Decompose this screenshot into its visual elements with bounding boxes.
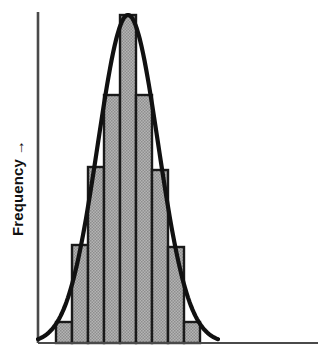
histogram-bar: [136, 95, 152, 343]
histogram-bar: [104, 95, 120, 343]
bar-fill: [104, 95, 120, 343]
bar-fill: [56, 322, 72, 343]
histogram-bar: [120, 15, 136, 343]
bar-fill: [168, 247, 184, 343]
histogram-figure: Frequency→: [0, 0, 322, 362]
arrow-right-icon: →: [10, 140, 27, 155]
plot-area: [0, 0, 322, 362]
y-axis-label-text: Frequency: [9, 159, 26, 236]
y-axis-label-container: Frequency→: [0, 0, 36, 362]
histogram-bar: [168, 247, 184, 343]
bar-fill: [184, 322, 200, 343]
bar-fill: [136, 95, 152, 343]
bar-fill: [120, 15, 136, 343]
histogram-bar: [56, 322, 72, 343]
histogram-bar: [184, 322, 200, 343]
bars-group: [56, 15, 200, 343]
y-axis-label: Frequency→: [9, 140, 27, 236]
